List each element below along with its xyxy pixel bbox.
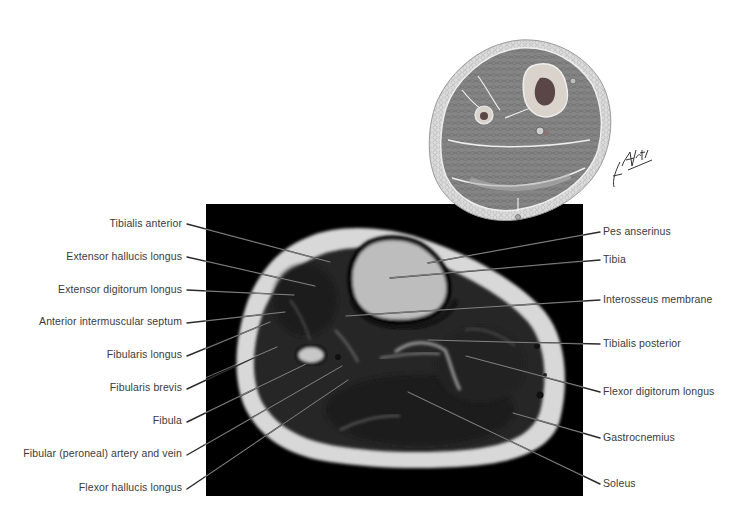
label-fibularis-longus: Fibularis longus [107, 348, 182, 360]
label-tibialis-anterior: Tibialis anterior [109, 217, 182, 229]
label-extensor-digitorum-longus: Extensor digitorum longus [58, 283, 182, 295]
label-soleus: Soleus [603, 477, 636, 489]
label-fibular-artery-and-vein: Fibular (peroneal) artery and vein [23, 447, 182, 459]
mri-fibula [297, 346, 325, 364]
netter-signature [613, 150, 652, 187]
label-pes-anserinus: Pes anserinus [603, 225, 671, 237]
label-flexor-hallucis-longus: Flexor hallucis longus [79, 481, 182, 493]
label-fibularis-brevis: Fibularis brevis [110, 381, 182, 393]
figure-canvas: Tibialis anterior Extensor hallucis long… [0, 0, 750, 523]
label-flexor-digitorum-longus: Flexor digitorum longus [603, 385, 714, 397]
mri-scan [236, 228, 565, 468]
label-tibialis-posterior: Tibialis posterior [603, 337, 681, 349]
label-gastrocnemius: Gastrocnemius [603, 431, 675, 443]
label-anterior-intermuscular-septum: Anterior intermuscular septum [39, 315, 182, 327]
label-extensor-hallucis-longus: Extensor hallucis longus [66, 250, 182, 262]
label-fibula: Fibula [153, 414, 182, 426]
label-interosseus-membrane: Interosseus membrane [603, 293, 712, 305]
netter-illustration [429, 40, 611, 221]
label-tibia: Tibia [603, 253, 626, 265]
